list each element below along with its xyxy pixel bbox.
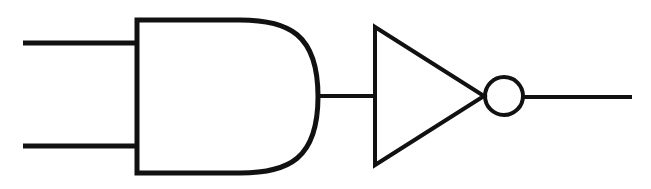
circuit-canvas: AND gate followed by inverter (NOT gate) (0, 0, 651, 189)
logic-circuit-diagram: AND gate followed by inverter (NOT gate) (0, 0, 651, 189)
